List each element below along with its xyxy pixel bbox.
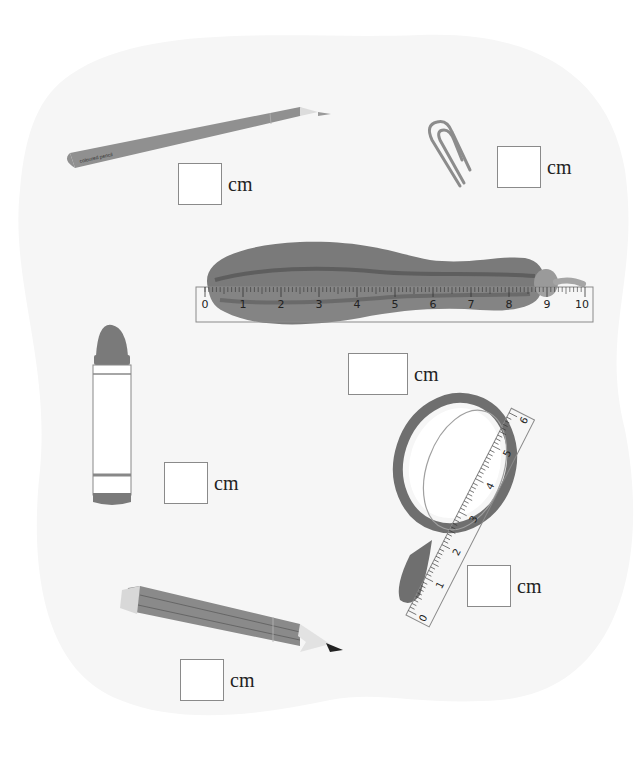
answer-colored-pencil: cm [178, 163, 252, 205]
answer-input-colored-pencil[interactable] [178, 163, 222, 205]
svg-text:5: 5 [392, 298, 399, 311]
answer-paper-clip: cm [497, 146, 571, 188]
svg-text:1: 1 [433, 580, 446, 591]
svg-text:1: 1 [240, 298, 247, 311]
unit-label: cm [228, 173, 252, 196]
answer-input-crayon[interactable] [164, 462, 208, 504]
svg-text:10: 10 [575, 298, 589, 311]
pencil-icon [120, 586, 343, 652]
answer-input-zucchini[interactable] [348, 353, 408, 395]
unit-label: cm [230, 669, 254, 692]
ruler-h-tick-0: 0 [202, 298, 209, 311]
svg-text:6: 6 [430, 298, 437, 311]
answer-pencil: cm [180, 659, 254, 701]
crayon-icon [93, 325, 131, 505]
answer-zucchini: cm [348, 353, 438, 395]
unit-label: cm [517, 575, 541, 598]
answer-magnifying-glass: cm [467, 565, 541, 607]
illustration-layer: coloured pencil 0 1 [0, 0, 636, 762]
answer-crayon: cm [164, 462, 238, 504]
svg-text:2: 2 [450, 547, 463, 558]
svg-text:4: 4 [354, 298, 361, 311]
unit-label: cm [547, 156, 571, 179]
svg-text:9: 9 [544, 298, 551, 311]
answer-input-magnifying-glass[interactable] [467, 565, 511, 607]
unit-label: cm [214, 472, 238, 495]
svg-text:8: 8 [506, 298, 513, 311]
paper-clip-icon [429, 121, 470, 186]
svg-text:3: 3 [316, 298, 323, 311]
answer-input-paper-clip[interactable] [497, 146, 541, 188]
svg-text:7: 7 [468, 298, 475, 311]
unit-label: cm [414, 363, 438, 386]
answer-input-pencil[interactable] [180, 659, 224, 701]
colored-pencil-icon: coloured pencil [67, 107, 331, 168]
ruler-horizontal: 0 1 2 3 4 5 6 7 8 9 10 [196, 287, 593, 322]
svg-text:2: 2 [278, 298, 285, 311]
